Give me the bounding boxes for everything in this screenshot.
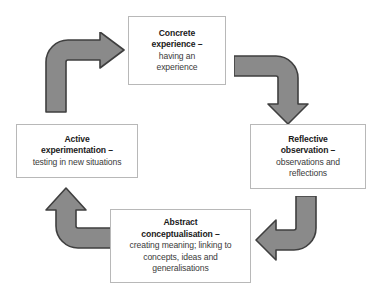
node-reflective-observation-description: observations and reflections (276, 157, 340, 180)
node-reflective-observation: Reflective observation – observations an… (250, 124, 366, 189)
node-active-experimentation: Active experimentation – testing in new … (16, 124, 138, 178)
node-abstract-conceptualisation-description: creating meaning; linking to concepts, i… (130, 240, 232, 274)
arrow-concrete-to-reflective-icon (234, 48, 324, 126)
arrow-active-to-concrete-icon (38, 32, 128, 114)
node-reflective-observation-title: Reflective observation – (281, 134, 336, 157)
kolb-learning-cycle-diagram: Concrete experience – having an experien… (0, 0, 378, 303)
node-abstract-conceptualisation: Abstract conceptualisation – creating me… (110, 209, 251, 283)
arrow-reflective-to-abstract-icon (254, 196, 338, 266)
node-concrete-experience-description: having an experience (156, 51, 197, 74)
node-abstract-conceptualisation-title: Abstract conceptualisation – (141, 217, 219, 240)
node-active-experimentation-description: testing in new situations (33, 157, 122, 168)
node-active-experimentation-title: Active experimentation – (41, 134, 113, 157)
node-concrete-experience-title: Concrete experience – (152, 28, 203, 51)
node-concrete-experience: Concrete experience – having an experien… (128, 16, 226, 85)
